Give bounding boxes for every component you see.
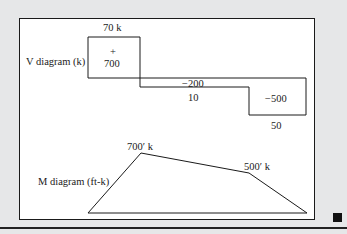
v-top-value-label: 70 k xyxy=(103,22,121,34)
m-diagram-title: M diagram (ft-k) xyxy=(38,176,109,188)
m-peak-right-label: 500′ k xyxy=(244,161,270,173)
m-diagram-shape xyxy=(88,153,307,213)
diagram-lines xyxy=(0,0,347,234)
end-of-section-square-icon xyxy=(333,213,342,222)
bottom-rule xyxy=(0,227,347,229)
m-peak-left-label: 700′ k xyxy=(127,141,153,153)
v-mid-value-label: −200 xyxy=(182,78,204,90)
v-left-area-label: 700 xyxy=(104,58,120,70)
v-right-area-label: −500 xyxy=(265,93,287,105)
v-right-value-label: 50 xyxy=(271,120,282,132)
v-plus-sign: + xyxy=(110,46,116,58)
v-diagram-title: V diagram (k) xyxy=(26,56,85,68)
v-mid-area-label: 10 xyxy=(188,92,199,104)
